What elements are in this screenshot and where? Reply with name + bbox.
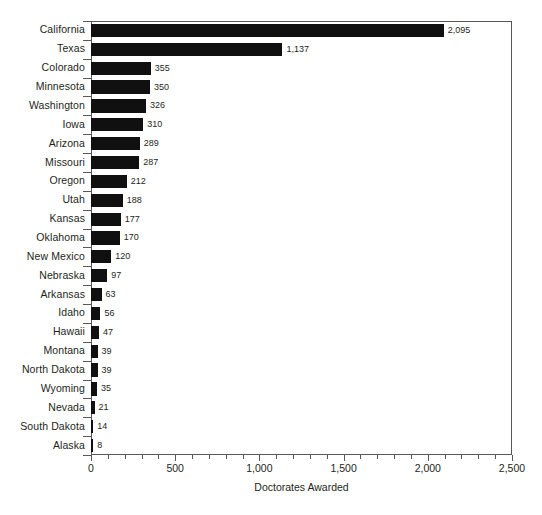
bar-row: Wyoming35: [0, 380, 542, 399]
x-axis-minor-tick: [377, 455, 378, 459]
category-label-oklahoma: Oklahoma: [36, 232, 85, 243]
category-label-iowa: Iowa: [62, 119, 85, 130]
x-axis-minor-tick: [445, 455, 446, 459]
bar-california: [91, 24, 444, 37]
category-label-oregon: Oregon: [49, 175, 85, 186]
x-axis-tick-label: 1,500: [330, 463, 356, 474]
x-axis-minor-tick: [125, 455, 126, 459]
bar-oklahoma: [91, 231, 120, 244]
category-label-arizona: Arizona: [49, 138, 85, 149]
bar-idaho: [91, 307, 100, 320]
category-label-texas: Texas: [57, 43, 85, 54]
bar-row: Kansas177: [0, 210, 542, 229]
y-axis-tick: [83, 417, 91, 418]
x-axis-minor-tick: [360, 455, 361, 459]
bar-value-label: 56: [104, 309, 114, 318]
bar-texas: [91, 43, 282, 56]
y-axis-tick: [83, 380, 91, 381]
bar-value-label: 287: [143, 158, 158, 167]
bar-value-label: 2,095: [448, 26, 471, 35]
bar-row: Nevada21: [0, 398, 542, 417]
y-axis-tick: [83, 342, 91, 343]
x-axis-minor-tick: [327, 455, 328, 459]
y-axis-tick: [83, 153, 91, 154]
y-axis-tick: [83, 191, 91, 192]
category-label-montana: Montana: [43, 345, 85, 356]
category-label-nebraska: Nebraska: [39, 270, 85, 281]
category-label-california: California: [40, 24, 85, 35]
category-label-nevada: Nevada: [48, 402, 85, 413]
bar-oregon: [91, 175, 127, 188]
category-label-wyoming: Wyoming: [41, 383, 85, 394]
bar-value-label: 1,137: [286, 45, 309, 54]
category-label-arkansas: Arkansas: [40, 289, 85, 300]
bar-value-label: 97: [111, 271, 121, 280]
category-label-missouri: Missouri: [45, 157, 85, 168]
bar-value-label: 170: [124, 233, 139, 242]
bar-row: Arkansas63: [0, 285, 542, 304]
bar-new-mexico: [91, 250, 111, 263]
x-axis-tick-label: 500: [166, 463, 184, 474]
y-axis-tick: [83, 134, 91, 135]
y-axis-tick: [83, 210, 91, 211]
y-axis-tick: [83, 78, 91, 79]
bar-chart-figure: California2,095Texas1,137Colorado355Minn…: [0, 0, 542, 515]
x-axis-minor-tick: [108, 455, 109, 459]
x-axis-minor-tick: [394, 455, 395, 459]
bar-row: New Mexico120: [0, 247, 542, 266]
bar-row: Iowa310: [0, 115, 542, 134]
x-axis-minor-tick: [495, 455, 496, 459]
x-axis-minor-tick: [226, 455, 227, 459]
x-axis-major-tick: [175, 455, 176, 461]
y-axis-tick: [83, 361, 91, 362]
bar-value-label: 39: [102, 347, 112, 356]
bar-value-label: 289: [144, 139, 159, 148]
category-label-colorado: Colorado: [42, 62, 85, 73]
bar-nebraska: [91, 269, 107, 282]
bar-value-label: 39: [102, 366, 112, 375]
y-axis-tick: [83, 40, 91, 41]
bar-row: North Dakota39: [0, 361, 542, 380]
x-axis-major-tick: [91, 455, 92, 461]
bar-row: Nebraska97: [0, 266, 542, 285]
x-axis-minor-tick: [276, 455, 277, 459]
y-axis-tick: [83, 266, 91, 267]
bar-value-label: 350: [154, 83, 169, 92]
bar-value-label: 21: [99, 403, 109, 412]
bar-value-label: 35: [101, 384, 111, 393]
category-label-kansas: Kansas: [49, 213, 85, 224]
bar-row: Oklahoma170: [0, 229, 542, 248]
bar-value-label: 188: [127, 196, 142, 205]
x-axis-minor-tick: [158, 455, 159, 459]
x-axis-minor-tick: [478, 455, 479, 459]
category-label-hawaii: Hawaii: [53, 326, 85, 337]
x-axis-major-tick: [512, 455, 513, 461]
bar-value-label: 355: [155, 64, 170, 73]
x-axis-tick-label: 2,000: [415, 463, 441, 474]
bar-nevada: [91, 401, 95, 414]
y-axis-tick: [83, 304, 91, 305]
category-label-south-dakota: South Dakota: [20, 421, 85, 432]
bar-arizona: [91, 137, 140, 150]
bar-row: Montana39: [0, 342, 542, 361]
bar-row: Arizona289: [0, 134, 542, 153]
bar-south-dakota: [91, 420, 93, 433]
bar-row: Alaska8: [0, 436, 542, 455]
bar-value-label: 14: [97, 422, 107, 431]
bar-north-dakota: [91, 363, 98, 376]
y-axis-tick: [83, 172, 91, 173]
bar-row: Minnesota350: [0, 78, 542, 97]
category-label-washington: Washington: [29, 100, 85, 111]
bar-row: Missouri287: [0, 153, 542, 172]
y-axis-tick: [83, 96, 91, 97]
x-axis-minor-tick: [142, 455, 143, 459]
bar-row: Utah188: [0, 191, 542, 210]
x-axis-minor-tick: [411, 455, 412, 459]
bar-alaska: [91, 439, 93, 452]
bar-montana: [91, 345, 98, 358]
bar-minnesota: [91, 80, 150, 93]
bar-utah: [91, 194, 123, 207]
y-axis-tick: [83, 436, 91, 437]
category-label-new-mexico: New Mexico: [27, 251, 85, 262]
category-label-alaska: Alaska: [53, 440, 85, 451]
